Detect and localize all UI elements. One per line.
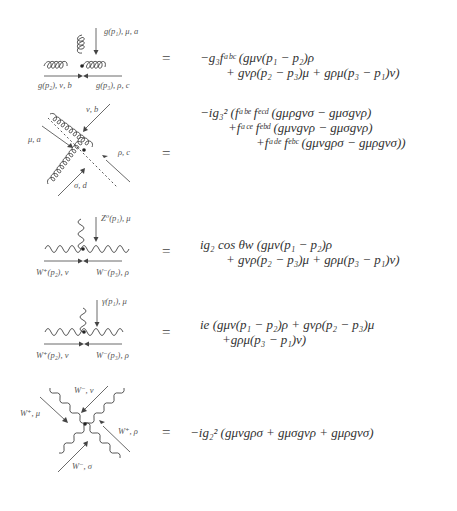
equals-sign: = bbox=[162, 324, 170, 341]
equation-line: −ig₃² (fᵃᵇᵉ fᵉᶜᵈ (gμρgνσ − gμσgνρ) bbox=[200, 105, 406, 120]
label-left: W⁺(p₂), ν bbox=[36, 350, 68, 360]
equation-line: +fᵃᵈᵉ fᵉᵇᶜ (gμνgρσ − gμρgνσ)) bbox=[200, 135, 406, 150]
label-top-right: ν, b bbox=[86, 104, 98, 114]
ww-gamma-equation: ie (gμν(p₁ − p₂)ρ + gνρ(p₂ − p₃)μ +gρμ(p… bbox=[200, 317, 374, 347]
label-right: W⁻(p₃), ρ bbox=[96, 267, 129, 277]
equals-sign: = bbox=[162, 145, 170, 162]
label-right: ρ, c bbox=[118, 147, 130, 157]
wwz-equation: ig₂ cos θw (gμν(p₁ − p₂)ρ + gνρ(p₂ − p₃)… bbox=[200, 237, 400, 267]
label-bottom: σ, d bbox=[74, 180, 87, 190]
equation-line: + gνρ(p₂ − p₃)μ + gρμ(p₃ − p₁)ν) bbox=[200, 252, 400, 267]
triple-gluon-equation: −g₃fᵃᵇᶜ (gμν(p₁ − p₂)ρ + gνρ(p₂ − p₃)μ +… bbox=[200, 50, 400, 80]
equation-line: +fᵃᶜᵉ fᵉᵇᵈ (gμνgνρ − gμσgνρ) bbox=[200, 120, 406, 135]
label-top: g(p₁), μ, a bbox=[104, 26, 138, 36]
equals-sign: = bbox=[162, 50, 170, 67]
label-top: W⁻, ν bbox=[74, 385, 94, 395]
label-right: W⁺, ρ bbox=[118, 426, 138, 436]
label-left: W⁺(p₂), ν bbox=[36, 267, 68, 277]
equals-sign: = bbox=[162, 243, 170, 260]
equals-sign: = bbox=[162, 424, 170, 441]
equation-line: ig₂ cos θw (gμν(p₁ − p₂)ρ bbox=[200, 237, 400, 252]
label-top: Z⁰(p₁), μ bbox=[101, 213, 131, 223]
equation-line: −g₃fᵃᵇᶜ (gμν(p₁ − p₂)ρ bbox=[200, 50, 400, 65]
quartic-gluon-equation: −ig₃² (fᵃᵇᵉ fᵉᶜᵈ (gμρgνσ − gμσgνρ) +fᵃᶜᵉ… bbox=[200, 105, 406, 150]
equation-line: −ig₂² (gμνgρσ + gμσgνρ + gμρgνσ) bbox=[190, 425, 374, 440]
label-top: γ(p₁), μ bbox=[102, 296, 127, 306]
label-left: g(p₂), ν, b bbox=[38, 80, 72, 90]
equation-line: + gνρ(p₂ − p₃)μ + gρμ(p₃ − p₁)ν) bbox=[200, 65, 400, 80]
label-bottom: W⁻, σ bbox=[72, 461, 92, 471]
label-left: W⁺, μ bbox=[20, 408, 40, 418]
equation-line: +gρμ(p₃ − p₁)ν) bbox=[200, 332, 374, 347]
label-left: μ, a bbox=[28, 134, 41, 144]
quartic-w-equation: −ig₂² (gμνgρσ + gμσgνρ + gμρgνσ) bbox=[190, 425, 374, 440]
label-right: W⁻(p₃), ρ bbox=[96, 350, 129, 360]
label-right: g(p₃), ρ, c bbox=[96, 80, 129, 90]
equation-line: ie (gμν(p₁ − p₂)ρ + gνρ(p₂ − p₃)μ bbox=[200, 317, 374, 332]
